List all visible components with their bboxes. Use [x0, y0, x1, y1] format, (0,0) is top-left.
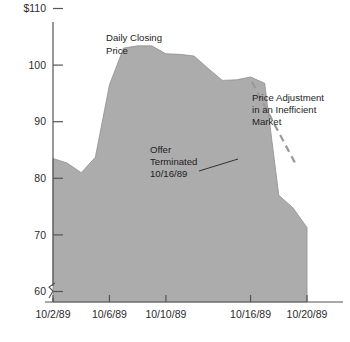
y-axis-tick-label: 70: [34, 229, 46, 241]
x-axis-tick-label: 10/2/89: [35, 308, 70, 320]
x-axis-tick-label: 10/6/89: [92, 308, 127, 320]
offer-terminated-line-2: Terminated: [150, 156, 197, 167]
price-adjustment-text: Price Adjustment in an Inefficient Marke…: [252, 92, 327, 127]
series-label-line-1: Daily Closing: [106, 32, 162, 43]
y-axis-tick-label: 90: [34, 115, 46, 127]
offer-terminated-line-1: Offer: [150, 144, 172, 155]
x-axis-tick-label: 10/20/89: [287, 308, 328, 320]
price-adjustment-line-2: in an Inefficient: [252, 104, 317, 115]
x-axis-tick-label: 10/10/89: [145, 308, 186, 320]
y-axis-tick-label: $110: [23, 2, 46, 14]
price-adjustment-line-3: Market: [252, 116, 282, 127]
y-axis-tick-label: 80: [34, 172, 46, 184]
chart-canvas: $11010090807060 10/2/8910/6/8910/10/8910…: [0, 0, 350, 342]
series-label-line-2: Price: [106, 45, 128, 56]
y-axis-tick-label: 60: [34, 285, 46, 297]
y-axis-tick-label: 100: [28, 59, 46, 71]
price-adjustment-line-1: Price Adjustment: [252, 92, 324, 103]
offer-terminated-line-3: 10/16/89: [150, 168, 187, 179]
x-axis-tick-label: 10/16/89: [230, 308, 271, 320]
closing-price-area-chart: $11010090807060 10/2/8910/6/8910/10/8910…: [0, 0, 350, 342]
